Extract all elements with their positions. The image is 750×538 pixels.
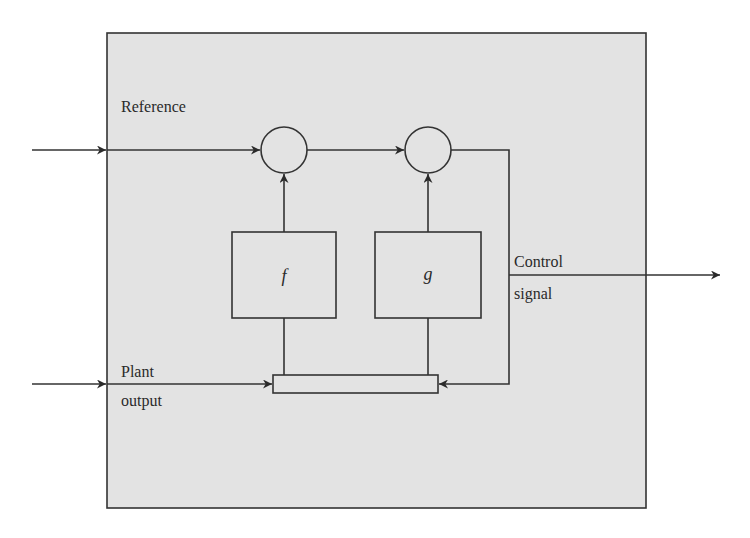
block-g-label: g <box>424 264 433 284</box>
plant-output-label-line1: Plant <box>121 363 154 380</box>
memory-bar <box>273 375 438 393</box>
summing-junction-2 <box>405 127 451 173</box>
controller-diagram: Reference Plant output Control signal f … <box>0 0 750 538</box>
control-signal-label-line1: Control <box>514 253 563 270</box>
plant-output-label-line2: output <box>121 392 162 410</box>
reference-label: Reference <box>121 98 186 115</box>
control-signal-label-line2: signal <box>514 285 553 303</box>
summing-junction-1 <box>261 127 307 173</box>
